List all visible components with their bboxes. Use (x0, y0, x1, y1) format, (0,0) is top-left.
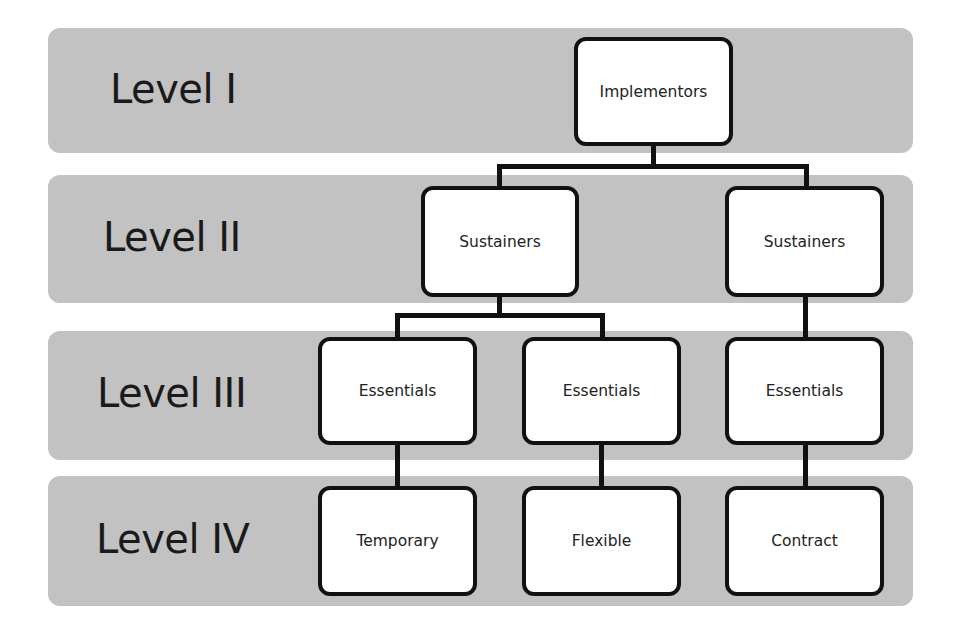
node-flexible: Flexible (522, 486, 681, 596)
level-label-4: Level IV (96, 516, 249, 562)
node-essentials-1: Essentials (318, 337, 477, 445)
connector-to-flexible (599, 442, 604, 488)
connector-level2-horizontal (497, 164, 809, 169)
node-sustainers-left: Sustainers (421, 186, 579, 297)
level-label-2: Level II (103, 214, 241, 260)
connector-to-temporary (395, 442, 400, 488)
level-label-3: Level III (97, 370, 246, 416)
level-label-1: Level I (110, 66, 237, 112)
node-contract: Contract (725, 486, 884, 596)
connector-level3-horizontal (395, 313, 605, 318)
node-essentials-2: Essentials (522, 337, 681, 445)
connector-to-sustainers-right (804, 164, 809, 188)
node-essentials-3: Essentials (725, 337, 884, 445)
node-sustainers-right: Sustainers (725, 186, 884, 297)
node-temporary: Temporary (318, 486, 477, 596)
connector-to-essentials-2 (600, 313, 605, 339)
connector-to-sustainers-left (497, 164, 502, 188)
connector-to-contract (803, 442, 808, 488)
connector-to-essentials-3 (803, 294, 808, 339)
connector-to-essentials-1 (395, 313, 400, 339)
node-implementors: Implementors (574, 37, 733, 146)
